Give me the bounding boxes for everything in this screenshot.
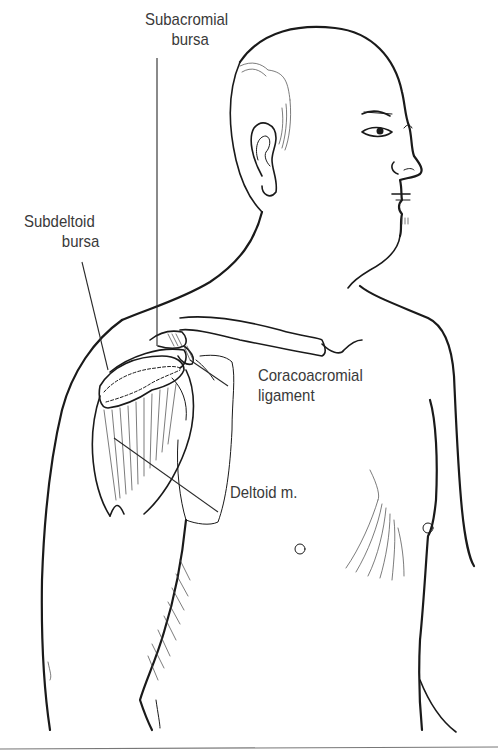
label-line: Coracoacromial <box>258 366 363 386</box>
label-subacromial-bursa: Subacromial bursa <box>145 10 228 50</box>
face-features <box>362 111 414 224</box>
hairline-hatching <box>240 63 291 150</box>
leader-subdeltoid-bursa <box>82 262 108 370</box>
anatomy-drawing <box>0 0 498 755</box>
bottom-rule <box>0 747 498 749</box>
label-line: Deltoid m. <box>230 483 297 503</box>
scapula-acromion <box>110 331 234 524</box>
label-line: Subdeltoid <box>24 212 99 232</box>
deltoid-muscle <box>93 370 194 516</box>
label-line: bursa <box>24 232 99 252</box>
shoulder-anatomy-figure: Subacromial bursa Subdeltoid bursa Corac… <box>0 0 498 755</box>
ear <box>251 123 276 196</box>
label-line: bursa <box>145 30 228 50</box>
chest-details <box>295 470 433 580</box>
label-deltoid-muscle: Deltoid m. <box>230 483 297 503</box>
clavicle <box>180 317 362 356</box>
leader-deltoid-muscle <box>114 438 218 512</box>
torso-right-outline <box>360 286 474 732</box>
label-line: ligament <box>258 386 363 406</box>
left-nipple <box>295 544 305 554</box>
humeral-head-bursa <box>99 356 184 408</box>
leader-coracoacromial-ligament <box>190 360 228 386</box>
label-subdeltoid-bursa: Subdeltoid bursa <box>24 212 99 252</box>
pupil <box>377 128 384 135</box>
label-coracoacromial-ligament: Coracoacromial ligament <box>258 366 363 406</box>
label-line: Subacromial <box>145 10 228 30</box>
